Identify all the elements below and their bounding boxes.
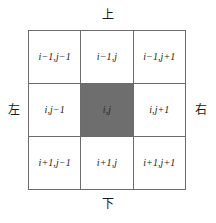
grid-cell-label: i−1,j xyxy=(97,52,117,62)
grid-cell: i,j+1 xyxy=(134,84,186,137)
grid-cell: i,j−1 xyxy=(29,84,81,137)
grid-cell-label: i−1,j−1 xyxy=(39,52,71,62)
neighborhood-grid-figure: 上 左 右 i−1,j−1 i−1,j i−1,j+1 i,j−1 i,j i,… xyxy=(0,0,216,223)
grid-cell: i+1,j−1 xyxy=(29,137,81,190)
grid-cell-label: i,j xyxy=(103,105,111,115)
grid-cell-label: i+1,j−1 xyxy=(39,158,71,168)
cell-grid: i−1,j−1 i−1,j i−1,j+1 i,j−1 i,j i,j+1 i+… xyxy=(28,30,186,190)
grid-cell: i−1,j xyxy=(81,31,133,84)
grid-cell: i+1,j+1 xyxy=(134,137,186,190)
direction-label-left: 左 xyxy=(6,104,22,116)
direction-label-bottom: 下 xyxy=(0,198,216,210)
grid-cell-label: i+1,j+1 xyxy=(143,158,175,168)
grid-cell: i+1,j xyxy=(81,137,133,190)
direction-label-right: 右 xyxy=(193,104,209,116)
grid-cell-label: i+1,j xyxy=(97,158,117,168)
grid-cell: i−1,j−1 xyxy=(29,31,81,84)
grid-cell-center-highlighted: i,j xyxy=(81,84,133,137)
grid-cell-label: i−1,j+1 xyxy=(143,52,175,62)
direction-label-top: 上 xyxy=(0,9,216,21)
grid-cell-label: i,j−1 xyxy=(45,105,65,115)
grid-cell-label: i,j+1 xyxy=(149,105,169,115)
grid-cell: i−1,j+1 xyxy=(134,31,186,84)
